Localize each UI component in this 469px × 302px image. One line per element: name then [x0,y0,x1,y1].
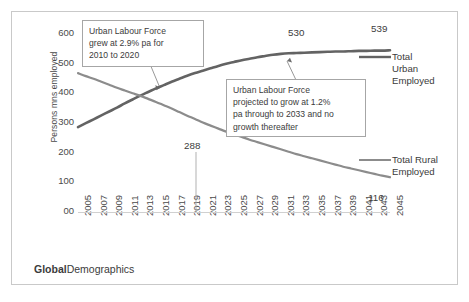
data-label-530: 530 [288,27,304,38]
annotation-arrow-projected [287,61,296,80]
annotation-growth-projected: Urban Labour Force projected to grow at … [226,79,366,137]
annotation-line: Urban Labour Force [233,84,359,96]
legend-label-rural: Total Rural Employed [392,154,438,178]
annotation-line: projected to grow at 1.2% [233,96,359,108]
annotation-line: 2010 to 2020 [89,49,197,61]
legend-label-urban: Total Urban Employed [392,51,435,86]
brand-logo: GlobalDemographics [34,263,134,275]
annotation-growth-historic: Urban Labour Force grew at 2.9% pa for 2… [82,20,204,67]
data-label-288: 288 [184,140,200,151]
plot-area [0,0,469,302]
data-label-116: 116 [368,192,384,203]
brand-bold: Global [34,263,67,275]
data-label-539: 539 [371,23,387,34]
annotation-line: growth thereafter [233,121,359,133]
annotation-arrow-historic [150,64,160,88]
brand-light: Demographics [67,263,135,275]
annotation-line: Urban Labour Force [89,25,197,37]
annotation-line: grew at 2.9% pa for [89,37,197,49]
annotation-line: pa through to 2033 and no [233,108,359,120]
